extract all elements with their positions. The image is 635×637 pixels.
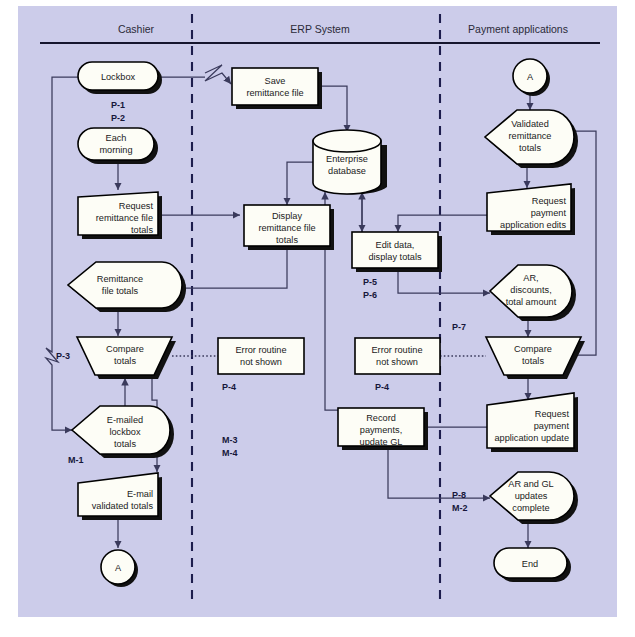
node-ar-discounts-line2: discounts, [510, 285, 551, 295]
node-compare-totals-left-line1: Compare [106, 344, 144, 354]
lane-title-erp: ERP System [290, 23, 350, 35]
node-enterprise-db-line1: Enterprise [326, 154, 368, 164]
node-lockbox-label: Lockbox [101, 72, 136, 82]
flowchart-svg: Cashier ERP System Payment applications [0, 0, 635, 637]
tag-m2: M-2 [452, 503, 468, 513]
node-request-remittance-line1: Request [119, 201, 154, 211]
node-display-remittance-line3: totals [276, 235, 298, 245]
tag-p6: P-6 [363, 290, 377, 300]
tag-p4-right: P-4 [375, 382, 389, 392]
node-ar-gl-updates-line3: complete [512, 503, 549, 513]
node-error-routine-left[interactable]: Error routine not shown [218, 338, 304, 374]
node-save-remittance[interactable]: Save remittance file [232, 68, 322, 109]
node-compare-totals-left-line2: totals [114, 356, 136, 366]
node-request-app-edits-line2: payment [531, 208, 567, 218]
node-connector-a-top-label: A [527, 72, 534, 82]
node-save-remittance-line2: remittance file [246, 88, 303, 98]
node-error-routine-right-line2: not shown [376, 357, 418, 367]
tag-m3: M-3 [222, 435, 238, 445]
node-each-morning-line2: morning [99, 145, 132, 155]
lane-title-cashier: Cashier [118, 23, 155, 35]
node-record-payments-line1: Record [366, 413, 396, 423]
tag-p3: P-3 [56, 351, 70, 361]
node-lockbox[interactable]: Lockbox [78, 62, 162, 94]
flowchart-canvas: Cashier ERP System Payment applications [0, 0, 635, 637]
node-error-routine-left-line1: Error routine [235, 345, 286, 355]
node-end-label: End [522, 559, 538, 569]
lane-title-payment: Payment applications [468, 23, 568, 35]
node-error-routine-right-line1: Error routine [371, 345, 422, 355]
node-request-app-edits-line3: application edits [500, 220, 566, 230]
tag-m4: M-4 [222, 448, 238, 458]
tag-m1: M-1 [68, 455, 84, 465]
node-emailed-lockbox-line3: totals [114, 439, 136, 449]
node-compare-totals-right-line2: totals [522, 356, 544, 366]
node-record-payments[interactable]: Record payments, update GL [338, 408, 428, 450]
node-record-payments-line3: update GL [360, 437, 403, 447]
node-email-validated-line1: E-mail [127, 489, 153, 499]
node-enterprise-db[interactable]: Enterprise database [313, 130, 387, 194]
node-request-app-edits-line1: Request [532, 196, 567, 206]
node-request-app-update-line1: Request [535, 409, 570, 419]
node-validated-remittance-line2: remittance [509, 131, 552, 141]
node-save-remittance-line1: Save [265, 76, 286, 86]
node-error-routine-right[interactable]: Error routine not shown [355, 338, 440, 374]
node-remittance-totals-line2: file totals [102, 286, 139, 296]
tag-p7: P-7 [452, 322, 466, 332]
tag-p4-left: P-4 [222, 382, 236, 392]
node-email-validated-line2: validated totals [92, 501, 154, 511]
node-validated-remittance-line3: totals [519, 143, 541, 153]
node-emailed-lockbox-line1: E-mailed [107, 415, 143, 425]
node-display-remittance[interactable]: Display remittance file totals [244, 205, 334, 250]
node-connector-a-bottom-label: A [115, 563, 122, 573]
tag-p1: P-1 [111, 100, 125, 110]
node-remittance-totals-line1: Remittance [97, 274, 143, 284]
node-request-app-update-line3: application update [494, 433, 569, 443]
node-display-remittance-line1: Display [272, 211, 303, 221]
node-request-remittance-line2: remittance file [96, 213, 153, 223]
node-each-morning[interactable]: Each morning [78, 128, 158, 164]
node-end[interactable]: End [494, 548, 571, 582]
tag-p5: P-5 [363, 277, 377, 287]
tag-p8: P-8 [452, 490, 466, 500]
node-ar-discounts-line1: AR, [523, 273, 538, 283]
node-emailed-lockbox-line2: lockbox [109, 427, 141, 437]
node-request-remittance[interactable]: Request remittance file totals [78, 192, 162, 239]
node-request-app-edits[interactable]: Request payment application edits [487, 184, 575, 235]
node-ar-gl-updates-line2: updates [515, 491, 548, 501]
node-ar-gl-updates-line1: AR and GL [508, 479, 553, 489]
node-edit-data[interactable]: Edit data, display totals [352, 232, 442, 272]
node-error-routine-left-line2: not shown [240, 357, 282, 367]
node-each-morning-line1: Each [106, 133, 127, 143]
node-enterprise-db-line2: database [328, 166, 366, 176]
tag-p2: P-2 [111, 113, 125, 123]
node-request-app-update-line2: payment [534, 421, 570, 431]
node-record-payments-line2: payments, [360, 425, 402, 435]
node-validated-remittance-line1: Validated [511, 119, 549, 129]
node-compare-totals-right-line1: Compare [514, 344, 552, 354]
node-ar-discounts-line3: total amount [506, 297, 557, 307]
node-request-remittance-line3: totals [131, 225, 153, 235]
node-display-remittance-line2: remittance file [258, 223, 315, 233]
node-edit-data-line1: Edit data, [376, 240, 415, 250]
node-edit-data-line2: display totals [368, 252, 422, 262]
